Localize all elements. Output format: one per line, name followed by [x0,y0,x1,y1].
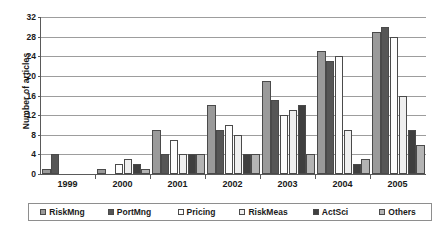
bar-group-2004 [316,17,371,174]
x-axis-label-2005: 2005 [387,179,407,189]
bar-riskmeas-2005 [399,96,407,175]
legend-swatch-icon [379,209,385,215]
plot-area: 048121620242832 [40,17,426,175]
bar-portmng-2003 [271,100,279,174]
y-axis-tick-label: 20 [27,72,36,81]
y-axis-tick-label: 12 [27,111,36,120]
bar-portmng-2001 [161,154,169,174]
bar-portmng-2004 [326,61,334,174]
x-axis-label-2000: 2000 [112,179,132,189]
bar-group-1999 [41,17,96,174]
y-axis-tick-label: 24 [27,52,36,61]
x-axis-label-2002: 2002 [222,179,242,189]
bar-group-2001 [151,17,206,174]
bar-riskmng-2002 [207,105,215,174]
bar-riskmeas-2002 [234,135,242,174]
bar-riskmng-1999 [42,169,50,174]
bar-actsci-2003 [298,105,306,174]
legend-swatch-icon [178,209,184,215]
bar-pricing-2002 [225,125,233,174]
x-axis-label-2001: 2001 [167,179,187,189]
legend-label: RiskMng [49,208,84,217]
legend-label: Others [388,208,415,217]
bar-riskmeas-2000 [124,159,132,174]
y-axis-tick-label: 4 [31,150,36,159]
bar-others-2005 [416,145,424,174]
bar-riskmeas-2004 [344,130,352,174]
x-axis-labels: 1999200020012002200320042005 [40,179,425,195]
y-axis-tick-label: 32 [27,13,36,22]
bar-others-2000 [141,169,149,174]
legend-swatch-icon [313,209,319,215]
legend-label: Pricing [187,208,216,217]
legend-label: PortMng [117,208,151,217]
x-axis-separator [260,175,261,179]
bar-riskmeas-2001 [179,154,187,174]
bar-riskmeas-2003 [289,110,297,174]
legend-label: ActSci [322,208,348,217]
chart-legend: RiskMngPortMngPricingRiskMeasActSciOther… [28,203,432,221]
bar-riskmng-2005 [372,32,380,174]
legend-swatch-icon [40,209,46,215]
bar-pricing-2003 [280,115,288,174]
bar-others-2003 [306,154,314,174]
bar-actsci-2002 [243,154,251,174]
bar-riskmng-2001 [152,130,160,174]
x-axis-separator [315,175,316,179]
bar-group-2003 [261,17,316,174]
bar-chart: Number of articles 048121620242832 19992… [0,0,447,225]
x-axis-separator [150,175,151,179]
legend-item-pricing[interactable]: Pricing [163,208,230,217]
bar-actsci-2000 [133,164,141,174]
legend-item-actsci[interactable]: ActSci [297,208,364,217]
y-axis-tick-label: 8 [31,131,36,140]
y-axis-tick-label: 16 [27,91,36,100]
legend-swatch-icon [108,209,114,215]
bar-riskmng-2004 [317,51,325,174]
legend-item-riskmng[interactable]: RiskMng [29,208,96,217]
x-axis-label-2004: 2004 [332,179,352,189]
bar-pricing-2004 [335,56,343,174]
bar-group-2000 [96,17,151,174]
bar-others-2002 [251,154,259,174]
bar-others-2001 [196,154,204,174]
legend-item-others[interactable]: Others [364,208,431,217]
bar-group-2002 [206,17,261,174]
bar-actsci-2001 [188,154,196,174]
x-axis-label-2003: 2003 [277,179,297,189]
x-axis-separator [370,175,371,179]
bar-riskmng-2003 [262,81,270,174]
bar-portmng-1999 [51,154,59,174]
x-axis-separator [95,175,96,179]
bar-pricing-2005 [390,37,398,174]
bar-actsci-2004 [353,164,361,174]
bars-layer [41,17,426,174]
bar-actsci-2005 [408,130,416,174]
y-axis-tick-label: 0 [31,170,36,179]
legend-item-portmng[interactable]: PortMng [96,208,163,217]
x-axis-separator [205,175,206,179]
x-axis-label-1999: 1999 [57,179,77,189]
bar-group-2005 [371,17,426,174]
bar-riskmng-2000 [97,169,105,174]
bar-pricing-2000 [115,164,123,174]
legend-item-riskmeas[interactable]: RiskMeas [230,208,297,217]
bar-portmng-2002 [216,130,224,174]
legend-label: RiskMeas [248,208,287,217]
y-axis-tick [38,174,41,175]
y-axis-tick-label: 28 [27,32,36,41]
bar-others-2004 [361,159,369,174]
bar-pricing-2001 [170,140,178,174]
legend-swatch-icon [239,209,245,215]
bar-portmng-2005 [381,27,389,174]
